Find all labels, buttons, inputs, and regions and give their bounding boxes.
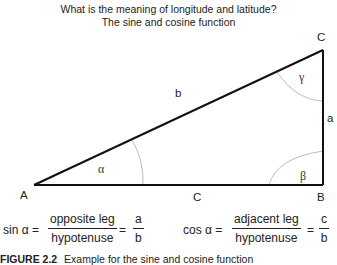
alpha-arc [132, 140, 143, 185]
sine-result-numerator: a [133, 212, 144, 229]
vertex-b-label: B [317, 192, 325, 204]
figure-caption: FIGURE 2.2 Example for the sine and cosi… [0, 253, 253, 265]
side-b-label: b [175, 88, 181, 100]
side-a-label: a [327, 113, 333, 125]
gamma-label: γ [299, 71, 304, 83]
vertex-c-label: C [317, 32, 325, 44]
cosine-numerator: adjacent leg [232, 212, 301, 229]
cosine-result-denominator: b [319, 229, 329, 245]
sine-denominator: hypotenuse [48, 229, 117, 245]
cosine-lhs: cos α = [183, 223, 222, 237]
beta-label: β [300, 170, 306, 182]
sine-result: a b [133, 212, 144, 245]
cosine-denominator: hypotenuse [232, 229, 301, 245]
beta-arc [269, 151, 323, 185]
sine-result-denominator: b [133, 229, 144, 245]
cosine-fraction: adjacent leg hypotenuse [232, 212, 301, 245]
sine-fraction: opposite leg hypotenuse [48, 212, 117, 245]
cosine-result: c b [319, 212, 329, 245]
cosine-result-numerator: c [319, 212, 329, 229]
sine-numerator: opposite leg [48, 212, 117, 229]
figure-caption-text: Example for the sine and cosine function [64, 253, 253, 265]
side-c-label: C [193, 192, 201, 204]
cosine-formula: cos α = adjacent leg hypotenuse = c b [180, 212, 337, 248]
vertex-a-label: A [20, 190, 28, 202]
cosine-equals: = [307, 223, 314, 237]
figure-label: FIGURE 2.2 [0, 253, 57, 265]
sine-lhs: sin α = [3, 223, 39, 237]
alpha-label: α [98, 163, 104, 175]
sine-formula: sin α = opposite leg hypotenuse = a b [0, 212, 160, 248]
sine-equals: = [119, 223, 126, 237]
side-b [34, 50, 323, 185]
